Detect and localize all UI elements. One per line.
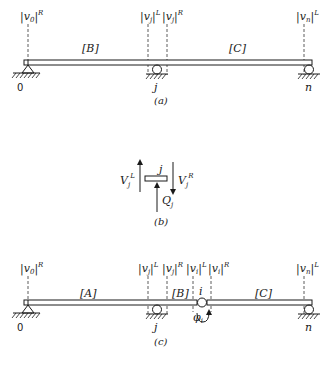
segment-label-A: [A] (80, 287, 97, 300)
hinge-label-i: i (199, 285, 203, 298)
state-vector-v0-R: |v0|R (20, 9, 44, 24)
pin-support-icon (12, 305, 40, 318)
svg-text:|v0|R: |v0|R (20, 9, 44, 24)
state-vector-vn-L: |vn|L (296, 261, 319, 276)
beam-left (24, 300, 197, 305)
force-label-VjR: VjR (178, 172, 194, 189)
state-vector-v0-R: |v0|R (20, 261, 44, 276)
node-element (145, 176, 167, 181)
segment-label-B: [B] (82, 42, 99, 55)
node-label-j: j (151, 81, 158, 94)
panel-b: j VjL VjR Qj (b) (120, 162, 194, 227)
force-label-Qj: Qj (162, 194, 174, 209)
svg-text:|vj|R: |vj|R (162, 9, 184, 24)
node-label-j: j (151, 321, 158, 334)
hinge-icon (198, 298, 207, 307)
node-label-0: 0 (17, 322, 23, 333)
segment-label-C: [C] (255, 287, 273, 300)
state-vector-vj-L: |vj|L (140, 9, 161, 24)
state-vector-vi-L: |vi|L (186, 261, 207, 276)
beam-right (207, 300, 312, 305)
segment-label-C: [C] (229, 42, 247, 55)
svg-text:|vj|L: |vj|L (140, 9, 161, 24)
panel-a: |v0|R |vj|L |vj|R |vn|L [B] [C] (12, 9, 320, 106)
state-vector-vj-L: |vj|L (138, 261, 159, 276)
node-label-0: 0 (17, 82, 23, 93)
roller-support-icon (146, 65, 168, 79)
caption-b: (b) (154, 216, 168, 227)
caption-a: (a) (154, 95, 168, 106)
force-label-VjL: VjL (120, 172, 135, 189)
svg-text:|vn|L: |vn|L (296, 9, 319, 24)
caption-c: (c) (154, 336, 168, 347)
state-vector-vn-L: |vn|L (296, 9, 319, 24)
state-vector-vj-R: |vj|R (162, 261, 184, 276)
roller-support-icon (298, 65, 320, 79)
beam-diagram: |v0|R |vj|L |vj|R |vn|L [B] [C] (0, 0, 328, 365)
panel-c: |v0|R |vj|L |vj|R |vi|L |vi|R |vn|L [A] … (12, 261, 320, 347)
state-vector-vj-R: |vj|R (162, 9, 184, 24)
roller-support-icon (146, 305, 168, 319)
node-label-n: n (305, 321, 312, 334)
node-label-j: j (156, 163, 163, 176)
beam (24, 60, 312, 65)
segment-label-B: [B] (172, 287, 189, 300)
state-vector-vi-R: |vi|R (208, 261, 230, 276)
rotation-label-phi-i: φi (193, 311, 203, 325)
node-label-n: n (305, 81, 312, 94)
pin-support-icon (12, 65, 40, 78)
roller-support-icon (298, 305, 320, 319)
